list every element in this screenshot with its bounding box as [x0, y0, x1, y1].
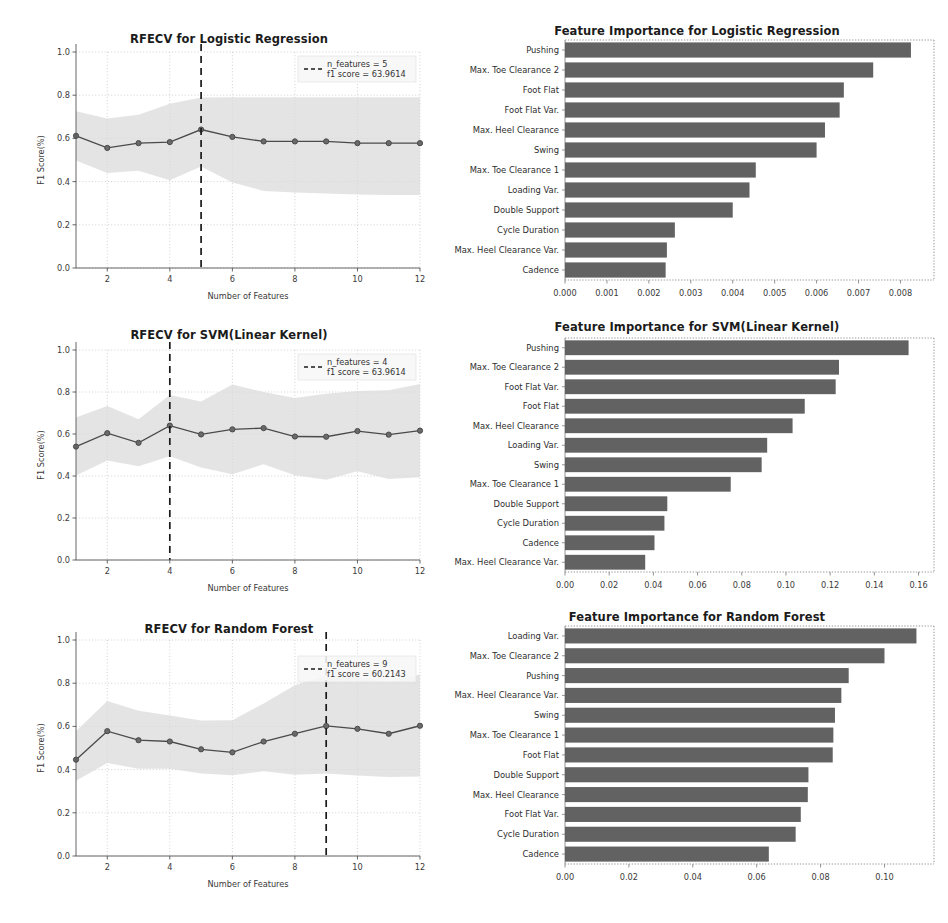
bar — [565, 807, 801, 822]
data-point-marker — [105, 145, 110, 150]
x-tick-label: 0.005 — [763, 288, 786, 298]
data-point-marker — [261, 139, 266, 144]
bar — [565, 399, 805, 414]
x-tick-label: 0.008 — [889, 288, 912, 298]
bar-category-label: Loading Var. — [508, 631, 559, 641]
axis-text: 4 — [167, 862, 172, 872]
feature-importance-bar-chart: PushingMax. Toe Clearance 2Foot FlatFoot… — [452, 20, 942, 322]
bar — [565, 262, 666, 277]
axis-text: 4 — [167, 274, 172, 284]
data-point-marker — [105, 729, 110, 734]
panel-importance-logistic-regression: Feature Importance for Logistic Regressi… — [452, 20, 942, 322]
std-deviation-band — [76, 675, 420, 781]
data-point-marker — [292, 731, 297, 736]
rfecv-line-chart: 0.00.20.40.60.81.024681012Number of Feat… — [14, 26, 444, 322]
bar — [565, 340, 909, 355]
x-tick-label: 0.10 — [875, 872, 893, 882]
y-axis-label: F1 Score(%) — [36, 135, 46, 185]
axis-text: 2 — [105, 274, 110, 284]
bar-category-label: Max. Heel Clearance Var. — [454, 690, 559, 700]
legend: n_features = 4f1 score = 63.9614 — [298, 354, 416, 380]
bar-category-label: Cycle Duration — [497, 829, 559, 839]
x-tick-label: 0.02 — [620, 872, 638, 882]
bar-category-label: Cadence — [522, 849, 559, 859]
bar — [565, 102, 840, 117]
bar-category-label: Pushing — [526, 343, 559, 353]
data-point-marker — [136, 440, 141, 445]
x-tick-label: 0.08 — [733, 580, 751, 590]
legend-n-features-label: n_features = 4 — [327, 357, 387, 367]
data-point-marker — [386, 432, 391, 437]
axis-text: 0.6 — [57, 721, 70, 731]
panel-title: RFECV for Random Forest — [14, 622, 444, 636]
bar — [565, 787, 808, 802]
bar-category-label: Cadence — [522, 265, 559, 275]
bar — [565, 82, 844, 97]
axis-text: 10 — [352, 566, 362, 576]
plot-area: 0.00.20.40.60.81.024681012Number of Feat… — [36, 342, 425, 593]
bar — [565, 688, 841, 703]
bar — [565, 648, 884, 663]
bar-category-label: Loading Var. — [508, 185, 559, 195]
figure-canvas: RFECV for Logistic Regression 0.00.20.40… — [0, 0, 948, 923]
bar-category-label: Max. Heel Clearance — [473, 790, 559, 800]
bar-category-label: Cycle Duration — [497, 225, 559, 235]
axis-text: 0.2 — [57, 513, 70, 523]
axis-text: 0.0 — [57, 851, 70, 861]
bar — [565, 747, 833, 762]
data-point-marker — [417, 428, 422, 433]
axis-text: 10 — [352, 862, 362, 872]
legend: n_features = 5f1 score = 63.9614 — [298, 56, 416, 82]
bar — [565, 847, 769, 862]
data-point-marker — [324, 139, 329, 144]
data-point-marker — [261, 739, 266, 744]
data-point-marker — [230, 750, 235, 755]
bar — [565, 438, 767, 453]
plot-area: 0.00.20.40.60.81.024681012Number of Feat… — [36, 632, 425, 889]
bar — [565, 668, 849, 683]
panel-importance-random-forest: Feature Importance for Random Forest Loa… — [452, 606, 942, 906]
axis-text: 12 — [415, 862, 425, 872]
std-deviation-band — [76, 97, 420, 195]
axis-text: 8 — [292, 274, 297, 284]
axis-text: 0.0 — [57, 555, 70, 565]
data-point-marker — [417, 723, 422, 728]
x-tick-label: 0.00 — [556, 872, 574, 882]
y-axis-label: F1 Score(%) — [36, 430, 46, 480]
bar-category-label: Swing — [534, 460, 559, 470]
bar — [565, 122, 825, 137]
legend-n-features-label: n_features = 5 — [327, 59, 387, 69]
plot-area: PushingMax. Toe Clearance 2Foot FlatFoot… — [454, 40, 934, 298]
legend-f1-score-label: f1 score = 60.2143 — [327, 669, 406, 679]
data-point-marker — [324, 723, 329, 728]
x-axis-label: Number of Features — [207, 879, 288, 889]
axis-text: 0.4 — [57, 471, 70, 481]
bar — [565, 477, 731, 492]
data-point-marker — [292, 139, 297, 144]
bar — [565, 535, 654, 550]
bar-category-label: Foot Flat — [523, 85, 560, 95]
axis-text: 8 — [292, 566, 297, 576]
data-point-marker — [417, 141, 422, 146]
data-point-marker — [355, 726, 360, 731]
bar — [565, 827, 796, 842]
axis-text: 2 — [105, 566, 110, 576]
data-point-marker — [386, 141, 391, 146]
x-tick-label: 0.06 — [748, 872, 766, 882]
data-point-marker — [386, 731, 391, 736]
bar-category-label: Max. Toe Clearance 2 — [470, 651, 559, 661]
data-point-marker — [198, 432, 203, 437]
bar — [565, 222, 675, 237]
panel-rfecv-svm-linear-kernel: RFECV for SVM(Linear Kernel) 0.00.20.40.… — [14, 324, 444, 614]
legend: n_features = 9f1 score = 60.2143 — [298, 656, 416, 682]
bar-category-label: Max. Toe Clearance 1 — [470, 479, 559, 489]
x-tick-label: 0.12 — [821, 580, 839, 590]
bar-category-label: Max. Heel Clearance — [473, 421, 559, 431]
bar-category-label: Double Support — [494, 499, 560, 509]
x-tick-label: 0.001 — [595, 288, 618, 298]
x-axis-label: Number of Features — [207, 291, 288, 301]
bar — [565, 457, 762, 472]
bar-category-label: Max. Toe Clearance 1 — [470, 730, 559, 740]
axis-text: 2 — [105, 862, 110, 872]
x-tick-label: 0.002 — [637, 288, 660, 298]
